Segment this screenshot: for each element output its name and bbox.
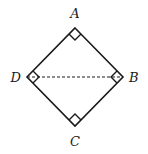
- vertex-label-b: B: [128, 70, 139, 85]
- vertex-label-a: A: [69, 6, 79, 21]
- square-abcd-diagram: A B C D: [0, 0, 148, 154]
- vertex-label-d: D: [10, 70, 22, 85]
- right-angle-mark-a: [69, 34, 81, 40]
- vertex-label-c: C: [70, 134, 80, 149]
- right-angle-mark-c: [69, 114, 81, 120]
